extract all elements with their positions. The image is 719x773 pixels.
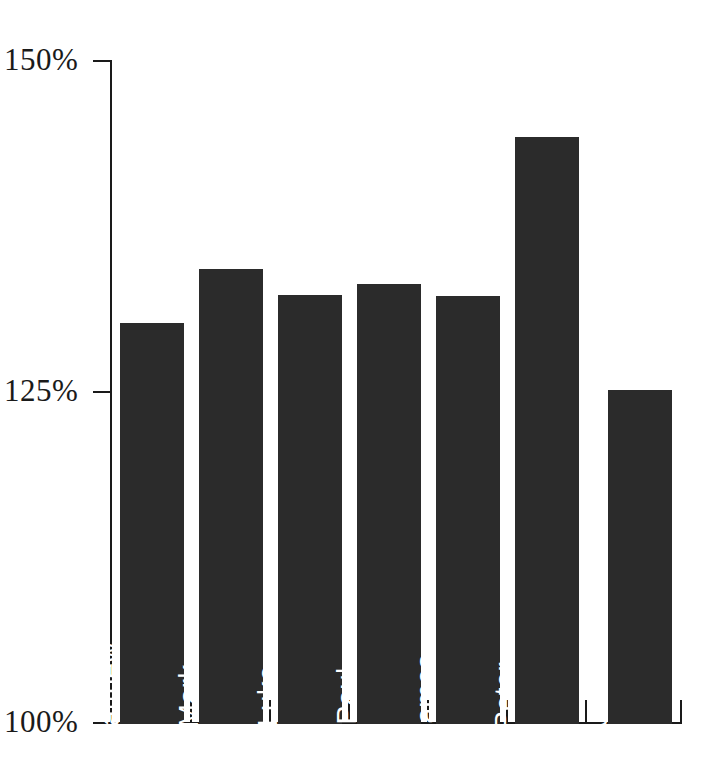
bar-james[interactable]: James	[436, 296, 500, 724]
bar-label-paul: Paul	[361, 668, 389, 725]
y-axis-label-100: 100%	[4, 706, 94, 737]
bar-label-matthew: Matthew	[124, 642, 152, 749]
y-axis-label-150: 150%	[4, 44, 94, 75]
bar-mark[interactable]: Mark	[199, 269, 263, 724]
bar-label-luke: Luke	[282, 665, 310, 727]
bar-label-john: John	[612, 665, 640, 727]
bar-luke[interactable]: Luke	[278, 295, 342, 724]
y-axis-label-100-wrap: 100%	[22, 706, 94, 738]
y-axis-label-125: 125%	[4, 375, 94, 406]
bar-label-james: James	[440, 654, 468, 737]
bar-john[interactable]: John	[608, 390, 672, 724]
y-axis-label-150-wrap: 150%	[22, 44, 94, 76]
bar-peter[interactable]: Peter	[515, 137, 579, 724]
y-axis-line	[110, 60, 112, 724]
bar-chart: 150% 125% 100% Matthew Mark	[0, 0, 719, 773]
y-axis-tick-150	[93, 60, 110, 62]
y-axis-label-125-wrap: 125%	[22, 375, 94, 407]
bar-label-peter: Peter	[519, 662, 547, 730]
x-axis-tick-7	[680, 700, 682, 723]
bar-label-mark: Mark	[203, 664, 231, 727]
plot-area: 150% 125% 100% Matthew Mark	[0, 0, 719, 773]
y-axis-tick-125	[93, 391, 110, 393]
